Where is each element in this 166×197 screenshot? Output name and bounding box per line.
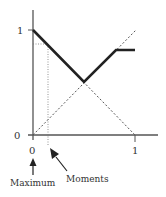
y-tick-label-0: 0 (14, 130, 20, 141)
y-tick-label-1: 1 (17, 25, 23, 36)
moments-arrow-head (50, 148, 59, 159)
x-tick-label-1: 1 (132, 145, 138, 156)
x-tick-label-0: 0 (29, 145, 35, 156)
moments-label: Moments (66, 174, 109, 184)
maximum-arrow-head (30, 158, 37, 166)
maximum-label: Maximum (10, 178, 56, 188)
diagram-canvas: 1 0 0 1 Maximum Moments (0, 0, 166, 197)
moments-arrow-shaft (56, 157, 67, 171)
